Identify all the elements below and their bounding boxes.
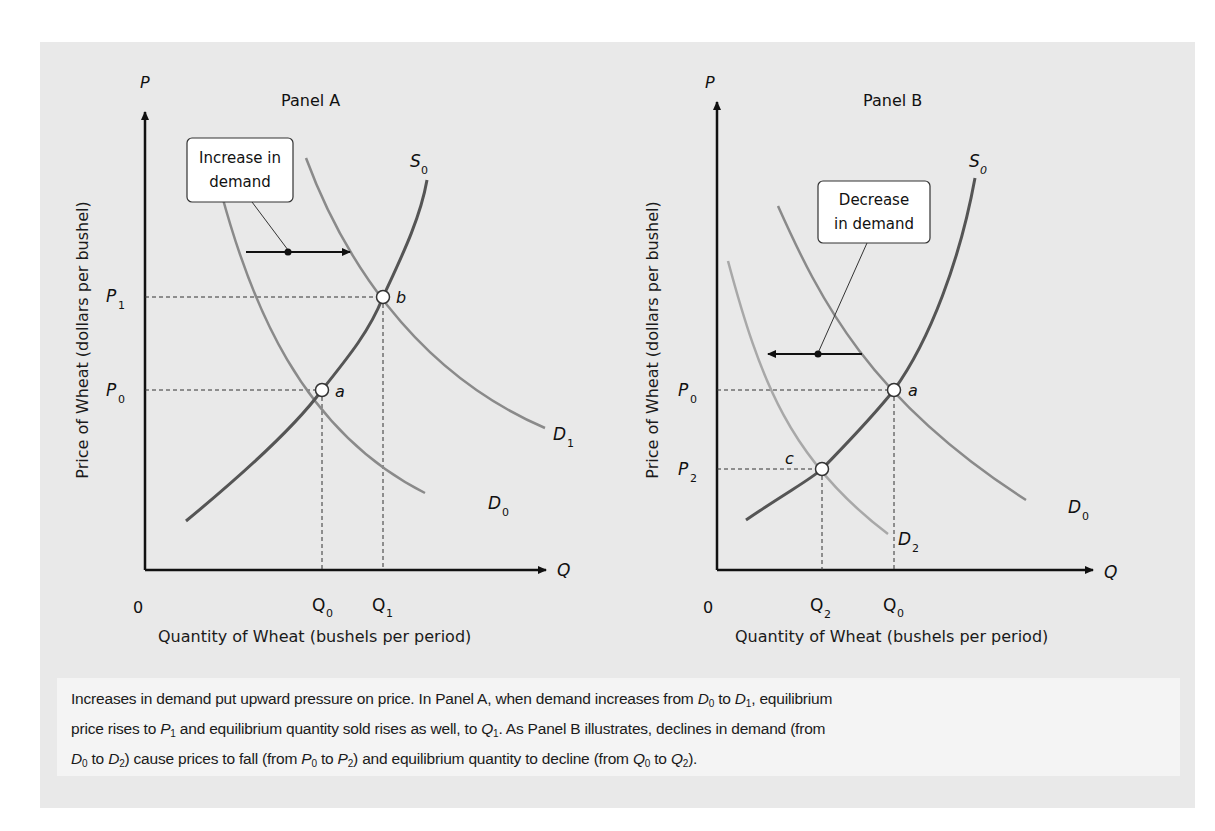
svg-text:0: 0	[326, 607, 333, 620]
panel-b-price-p0: P 0	[678, 380, 697, 406]
panel-b-annotation-line1: Decrease	[839, 191, 909, 209]
panel-a-annotation-leader	[252, 202, 288, 250]
svg-text:0: 0	[421, 164, 428, 177]
svg-text:D: D	[553, 424, 566, 444]
panel-a-shift-dot	[285, 249, 292, 256]
panel-b-label-a: a	[908, 381, 918, 400]
svg-text:0: 0	[897, 607, 904, 620]
svg-text:D: D	[898, 529, 911, 549]
panel-a-x-label: Quantity of Wheat (bushels per period)	[158, 627, 471, 646]
panel-b-label-d0: D 0	[1068, 497, 1089, 523]
panel-b-label-d2: D 2	[898, 529, 919, 555]
svg-text:1: 1	[567, 437, 574, 450]
panel-a-y-label: Price of Wheat (dollars per bushel)	[73, 201, 92, 478]
panel-a: Panel A P Q 0 Price of Wheat (dollars pe…	[73, 73, 574, 646]
panel-a-y-symbol: P	[140, 73, 150, 92]
svg-text:2: 2	[912, 542, 919, 555]
panel-a-label-a: a	[335, 382, 345, 401]
panel-a-supply-s0	[186, 180, 427, 521]
svg-text:P: P	[678, 459, 689, 479]
svg-text:0: 0	[118, 393, 125, 406]
svg-text:S: S	[410, 151, 421, 171]
panel-b-price-p2: P 2	[678, 459, 697, 485]
panel-a-label-d0: D 0	[488, 493, 509, 519]
panel-b-point-c	[816, 463, 829, 476]
panel-a-point-a	[316, 384, 329, 397]
panel-b-label-c: c	[785, 449, 794, 468]
svg-text:Q: Q	[372, 595, 385, 615]
panel-b: Panel B P Q 0 Price of Wheat (dollars pe…	[643, 73, 1117, 646]
panel-a-origin: 0	[133, 598, 143, 617]
panel-a-label-s0: S 0	[410, 151, 428, 177]
panel-a-guides	[145, 297, 383, 570]
svg-text:D: D	[488, 493, 501, 513]
panel-b-point-a	[888, 384, 901, 397]
panel-a-price-p1: P 1	[106, 286, 125, 312]
svg-text:0: 0	[690, 393, 697, 406]
panel-b-y-label: Price of Wheat (dollars per bushel)	[643, 201, 662, 478]
panel-b-title: Panel B	[863, 91, 922, 110]
panel-b-annotation-line2: in demand	[834, 215, 914, 233]
panel-b-qty-q2: Q 2	[810, 595, 831, 621]
panel-b-qty-q0: Q 0	[883, 595, 904, 620]
panel-a-point-b	[377, 291, 390, 304]
svg-text:0: 0	[980, 164, 987, 177]
svg-text:Q: Q	[810, 595, 823, 615]
svg-text:P: P	[678, 380, 689, 400]
svg-text:Q: Q	[883, 595, 896, 615]
panel-a-demand-d0	[221, 192, 425, 493]
svg-text:D: D	[1068, 497, 1081, 517]
panel-a-x-symbol: Q	[557, 560, 570, 580]
svg-text:0: 0	[502, 506, 509, 519]
svg-text:0: 0	[1082, 510, 1089, 523]
panel-a-qty-q0: Q 0	[312, 595, 333, 620]
panel-a-price-p0: P 0	[106, 380, 125, 406]
panel-a-annotation-line2: demand	[209, 173, 271, 191]
svg-text:P: P	[106, 380, 117, 400]
panel-b-x-symbol: Q	[1104, 562, 1117, 582]
panel-a-title: Panel A	[281, 91, 340, 110]
panel-a-label-d1: D 1	[553, 424, 574, 450]
panel-a-label-b: b	[396, 288, 406, 307]
svg-text:1: 1	[386, 607, 393, 620]
panel-b-y-symbol: P	[705, 73, 715, 92]
svg-text:2: 2	[690, 472, 697, 485]
panel-a-annotation-box	[187, 138, 293, 202]
panel-b-demand-d2	[728, 261, 888, 534]
svg-text:P: P	[106, 286, 117, 306]
panel-a-qty-q1: Q 1	[372, 595, 393, 620]
panel-a-annotation-line1: Increase in	[199, 149, 281, 167]
caption-text: Increases in demand put upward pressure …	[71, 686, 1171, 776]
panel-b-label-s0: S 0	[969, 151, 987, 177]
svg-text:S: S	[969, 151, 980, 171]
panel-b-shift-dot	[815, 351, 822, 358]
svg-text:2: 2	[824, 608, 831, 621]
panel-b-origin: 0	[703, 598, 713, 617]
svg-text:1: 1	[118, 299, 125, 312]
figure-caption: Increases in demand put upward pressure …	[57, 678, 1180, 776]
svg-text:Q: Q	[312, 595, 325, 615]
panel-b-x-label: Quantity of Wheat (bushels per period)	[735, 627, 1048, 646]
